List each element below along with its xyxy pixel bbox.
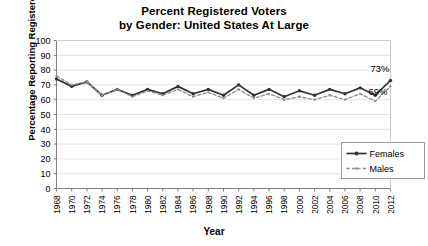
x-tick-label: 1986 (189, 195, 198, 214)
data-point-females (313, 94, 316, 97)
data-point-males (146, 90, 148, 92)
data-point-females (207, 88, 210, 91)
x-tick-label: 1988 (205, 195, 214, 214)
data-point-males (298, 96, 300, 98)
annotation-males-value: 69% (369, 86, 389, 97)
x-tick-label: 2002 (311, 195, 320, 214)
x-tick-label: 1972 (83, 195, 92, 214)
data-point-males (207, 91, 209, 93)
legend-label-females: Females (370, 149, 405, 159)
x-tick-label: 1968 (53, 195, 62, 214)
data-point-males (389, 85, 391, 87)
data-point-males (177, 88, 179, 90)
x-tick-labels: 1968197019721974197619781980198219841986… (53, 195, 396, 214)
data-point-females (298, 89, 301, 92)
data-point-males (131, 96, 133, 98)
data-point-males (268, 93, 270, 95)
y-tick-label: 40 (40, 125, 50, 135)
data-point-males (101, 94, 103, 96)
data-point-females (191, 92, 194, 95)
x-tick-label: 1976 (113, 195, 122, 214)
data-point-females (176, 85, 179, 88)
x-tick-label: 1982 (159, 195, 168, 214)
y-tick-label: 10 (40, 169, 50, 179)
data-point-males (313, 99, 315, 101)
legend-marker-females (355, 152, 359, 156)
x-tick-label: 1990 (220, 195, 229, 214)
data-point-females (328, 88, 331, 91)
y-tick-label: 30 (40, 139, 50, 149)
x-tick-label: 2008 (356, 195, 365, 214)
data-point-females (283, 95, 286, 98)
legend-marker-males (355, 167, 358, 170)
y-tick-label: 70 (40, 80, 50, 90)
plot-area: 0102030405060708090100 19681970197219741… (0, 0, 428, 246)
x-tick-label: 1998 (280, 195, 289, 214)
x-tick-label: 2010 (372, 195, 381, 214)
y-tick-label: 20 (40, 154, 50, 164)
x-tick-label: 1996 (265, 195, 274, 214)
y-tick-labels: 0102030405060708090100 (35, 36, 50, 194)
data-point-males (253, 97, 255, 99)
x-tick-label: 1994 (250, 195, 259, 214)
data-point-males (329, 94, 331, 96)
y-tick-label: 0 (45, 184, 50, 194)
x-tick-label: 1978 (129, 195, 138, 214)
data-point-females (358, 86, 361, 89)
y-tick-label: 90 (40, 51, 50, 61)
x-tick-label: 2004 (326, 195, 335, 214)
data-point-males (55, 75, 57, 77)
data-point-males (116, 88, 118, 90)
x-tick-label: 2012 (387, 195, 396, 214)
gridlines (54, 41, 391, 189)
annotation-females-value: 73% (371, 63, 391, 74)
data-point-males (162, 94, 164, 96)
data-point-males (374, 100, 376, 102)
x-tick-label: 2006 (341, 195, 350, 214)
data-point-females (343, 92, 346, 95)
y-tick-label: 100 (35, 36, 50, 46)
data-point-females (55, 77, 58, 80)
y-tick-label: 50 (40, 110, 50, 120)
data-point-females (222, 94, 225, 97)
y-tick-label: 80 (40, 65, 50, 75)
chart-legend: FemalesMales (342, 143, 425, 179)
data-point-females (389, 79, 392, 82)
data-series-layer (55, 75, 392, 102)
x-tick-label: 1980 (144, 195, 153, 214)
data-point-males (238, 88, 240, 90)
data-point-males (192, 96, 194, 98)
data-point-males (86, 81, 88, 83)
data-point-males (71, 84, 73, 86)
data-annotations: 73%69% (369, 63, 391, 97)
data-point-females (237, 83, 240, 86)
x-tick-label: 1970 (68, 195, 77, 214)
x-tick-label: 1984 (174, 195, 183, 214)
x-tick-label: 1992 (235, 195, 244, 214)
chart-container: Percent Registered Voters by Gender: Uni… (0, 0, 428, 246)
x-tick-label: 2000 (296, 195, 305, 214)
data-point-males (222, 97, 224, 99)
data-point-females (252, 94, 255, 97)
data-point-males (283, 99, 285, 101)
legend-label-males: Males (370, 164, 395, 174)
x-tick-label: 1974 (98, 195, 107, 214)
data-point-males (359, 93, 361, 95)
y-tick-label: 60 (40, 95, 50, 105)
data-point-males (344, 99, 346, 101)
data-point-females (267, 88, 270, 91)
